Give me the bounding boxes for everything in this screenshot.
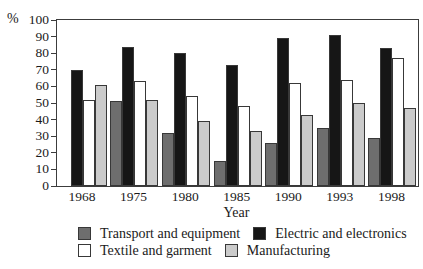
y-tick-label: 30 xyxy=(0,128,49,144)
bar xyxy=(353,103,365,186)
y-tick-mark xyxy=(51,86,56,87)
legend-label-textile: Textile and garment xyxy=(100,243,212,259)
legend-item-transport: Transport and equipment xyxy=(78,226,240,242)
bar xyxy=(146,100,158,186)
bar xyxy=(301,115,313,186)
y-tick-label: 60 xyxy=(0,78,49,94)
y-tick-mark xyxy=(51,169,56,170)
legend-label-electric: Electric and electronics xyxy=(275,226,406,242)
bar-chart-figure: % Year Transport and equipment Electric … xyxy=(0,0,423,269)
legend-item-manufacturing: Manufacturing xyxy=(225,243,330,259)
y-tick-mark xyxy=(51,69,56,70)
x-tick-label: 1993 xyxy=(314,189,366,205)
bar xyxy=(83,100,95,186)
bar xyxy=(226,65,238,186)
bar xyxy=(122,47,134,186)
y-tick-mark xyxy=(51,53,56,54)
y-tick-label: 20 xyxy=(0,145,49,161)
y-tick-label: 0 xyxy=(0,178,49,194)
y-tick-label: 40 xyxy=(0,112,49,128)
legend-label-transport: Transport and equipment xyxy=(100,226,240,242)
bar xyxy=(162,133,174,186)
y-tick-label: 80 xyxy=(0,45,49,61)
y-tick-mark xyxy=(51,20,56,21)
transport-swatch-icon xyxy=(78,227,91,240)
manufacturing-swatch-icon xyxy=(225,244,238,257)
bar xyxy=(265,143,277,186)
x-tick-label: 1985 xyxy=(211,189,263,205)
y-tick-mark xyxy=(51,136,56,137)
bar xyxy=(238,106,250,186)
legend-row-1: Transport and equipment Electric and ele… xyxy=(78,225,407,242)
electric-swatch-icon xyxy=(253,227,266,240)
bar xyxy=(198,121,210,186)
bar xyxy=(329,35,341,186)
plot-area xyxy=(56,19,419,187)
y-tick-mark xyxy=(51,119,56,120)
legend-item-electric: Electric and electronics xyxy=(253,226,406,242)
y-tick-mark xyxy=(51,152,56,153)
legend-row-2: Textile and garment Manufacturing xyxy=(78,242,407,259)
y-tick-label: 50 xyxy=(0,95,49,111)
x-tick-label: 1990 xyxy=(262,189,314,205)
bar xyxy=(277,38,289,186)
legend-item-textile: Textile and garment xyxy=(78,243,212,259)
x-tick-label: 1968 xyxy=(56,189,108,205)
bar xyxy=(186,96,198,186)
bar xyxy=(95,85,107,186)
legend-label-manufacturing: Manufacturing xyxy=(247,243,330,259)
x-tick-label: 1980 xyxy=(159,189,211,205)
bar xyxy=(250,131,262,186)
bar xyxy=(289,83,301,186)
x-tick-label: 1975 xyxy=(108,189,160,205)
x-axis-title: Year xyxy=(56,205,417,221)
y-tick-mark xyxy=(51,186,56,187)
bar xyxy=(71,70,83,186)
bar xyxy=(380,48,392,186)
x-tick-label: 1998 xyxy=(365,189,417,205)
bar xyxy=(134,81,146,186)
bar xyxy=(341,80,353,186)
y-tick-label: 90 xyxy=(0,29,49,45)
y-tick-mark xyxy=(51,103,56,104)
bar xyxy=(368,138,380,186)
y-tick-label: 100 xyxy=(0,12,49,28)
y-tick-mark xyxy=(51,36,56,37)
bar xyxy=(214,161,226,186)
bar xyxy=(404,108,416,186)
y-tick-label: 70 xyxy=(0,62,49,78)
bar xyxy=(317,128,329,186)
bar xyxy=(392,58,404,186)
legend: Transport and equipment Electric and ele… xyxy=(78,225,407,259)
textile-swatch-icon xyxy=(78,244,91,257)
bar xyxy=(174,53,186,186)
bar xyxy=(110,101,122,186)
y-tick-label: 10 xyxy=(0,161,49,177)
